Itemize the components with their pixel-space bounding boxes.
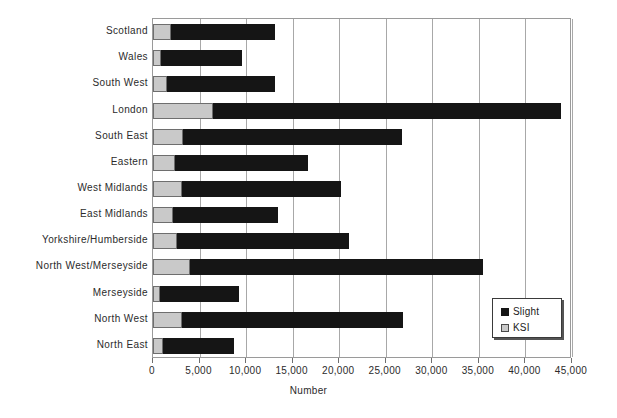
bar-segment-slight — [161, 50, 242, 66]
bar-row — [153, 103, 572, 119]
bar-row — [153, 76, 572, 92]
bar-segment-slight — [190, 259, 483, 275]
x-tick-label: 30,000 — [415, 365, 447, 376]
bar-segment-ksi — [153, 338, 163, 354]
legend-swatch-slight-icon — [501, 308, 509, 316]
y-axis-category-labels: ScotlandWalesSouth WestLondonSouth EastE… — [0, 18, 148, 358]
x-tick-mark — [152, 358, 153, 363]
bar-segment-ksi — [153, 24, 171, 40]
y-axis-label-west-midlands: West Midlands — [0, 182, 148, 193]
bar-segment-ksi — [153, 50, 161, 66]
legend-item-ksi[interactable]: KSI — [501, 320, 561, 335]
chart-legend[interactable]: Slight KSI — [492, 298, 562, 338]
bar-row — [153, 24, 572, 40]
bar-row — [153, 181, 572, 197]
x-tick-mark — [245, 358, 246, 363]
bar-segment-slight — [163, 338, 234, 354]
bar-segment-ksi — [153, 259, 190, 275]
x-tick-label: 20,000 — [322, 365, 354, 376]
bar-segment-ksi — [153, 181, 182, 197]
bar-segment-ksi — [153, 286, 160, 302]
y-axis-label-north-east: North East — [0, 339, 148, 350]
x-tick-label: 5,000 — [185, 365, 212, 376]
bar-segment-ksi — [153, 155, 175, 171]
bar-row — [153, 129, 572, 145]
bar-segment-slight — [160, 286, 239, 302]
x-tick-mark — [199, 358, 200, 363]
legend-swatch-ksi-icon — [501, 324, 509, 332]
x-axis-title: Number — [0, 385, 617, 396]
bar-row — [153, 233, 572, 249]
bar-segment-ksi — [153, 129, 183, 145]
x-tick-mark — [571, 358, 572, 363]
bar-segment-slight — [173, 207, 278, 223]
x-tick-mark — [431, 358, 432, 363]
bar-segment-ksi — [153, 312, 182, 328]
gridline-45000 — [572, 19, 573, 357]
x-tick-mark — [292, 358, 293, 363]
y-axis-label-merseyside: Merseyside — [0, 287, 148, 298]
x-tick-mark — [338, 358, 339, 363]
chart-screenshot: ScotlandWalesSouth WestLondonSouth EastE… — [0, 0, 617, 418]
y-axis-label-london: London — [0, 104, 148, 115]
x-tick-mark — [478, 358, 479, 363]
x-tick-label: 40,000 — [508, 365, 540, 376]
y-axis-label-eastern: Eastern — [0, 156, 148, 167]
legend-label-ksi: KSI — [513, 322, 530, 333]
bar-segment-ksi — [153, 103, 213, 119]
bar-segment-slight — [213, 103, 561, 119]
bar-segment-ksi — [153, 207, 173, 223]
bar-segment-ksi — [153, 76, 167, 92]
bar-row — [153, 207, 572, 223]
y-axis-label-scotland: Scotland — [0, 25, 148, 36]
y-axis-label-east-midlands: East Midlands — [0, 208, 148, 219]
legend-item-slight[interactable]: Slight — [501, 304, 561, 319]
bar-row — [153, 259, 572, 275]
x-tick-label: 35,000 — [462, 365, 494, 376]
x-tick-mark — [524, 358, 525, 363]
bar-segment-slight — [175, 155, 308, 171]
legend-label-slight: Slight — [513, 306, 539, 317]
y-axis-label-north-west: North West — [0, 313, 148, 324]
bar-row — [153, 50, 572, 66]
bar-segment-slight — [177, 233, 349, 249]
bar-segment-slight — [183, 129, 402, 145]
bar-row — [153, 155, 572, 171]
bar-segment-slight — [171, 24, 275, 40]
y-axis-label-yorkshire-humberside: Yorkshire/Humberside — [0, 234, 148, 245]
x-tick-label: 45,000 — [555, 365, 587, 376]
y-axis-label-north-west-merseyside: North West/Merseyside — [0, 260, 148, 271]
x-tick-mark — [385, 358, 386, 363]
x-tick-label: 10,000 — [229, 365, 261, 376]
x-tick-label: 25,000 — [369, 365, 401, 376]
bar-segment-slight — [182, 312, 403, 328]
x-tick-label: 0 — [149, 365, 155, 376]
bar-row — [153, 338, 572, 354]
x-tick-label: 15,000 — [275, 365, 307, 376]
bar-segment-slight — [182, 181, 341, 197]
bar-segment-ksi — [153, 233, 177, 249]
y-axis-label-south-west: South West — [0, 77, 148, 88]
y-axis-label-south-east: South East — [0, 130, 148, 141]
bar-segment-slight — [167, 76, 275, 92]
y-axis-label-wales: Wales — [0, 51, 148, 62]
